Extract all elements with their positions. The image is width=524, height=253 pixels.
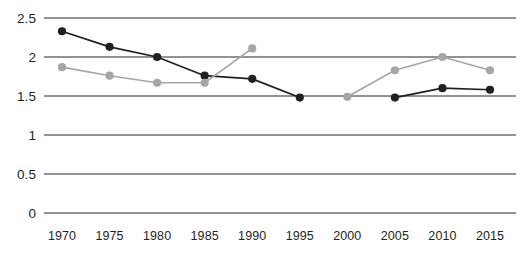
x-tick-label: 2015 — [476, 229, 504, 243]
x-tick-label: 1975 — [95, 229, 123, 243]
data-point-dark-series — [153, 53, 161, 61]
data-point-grey-series — [438, 53, 446, 61]
data-point-dark-series — [486, 86, 494, 94]
data-point-grey-series — [391, 66, 399, 74]
series-line-dark-series — [62, 31, 300, 97]
data-point-grey-series — [486, 66, 494, 74]
data-point-dark-series — [438, 84, 446, 92]
x-tick-label: 1970 — [48, 229, 76, 243]
data-point-grey-series — [343, 93, 351, 101]
data-point-dark-series — [201, 72, 209, 80]
data-point-grey-series — [201, 79, 209, 87]
data-point-dark-series — [105, 43, 113, 51]
x-tick-label: 1980 — [143, 229, 171, 243]
data-point-grey-series — [58, 63, 66, 71]
y-tick-label: 1.5 — [17, 89, 36, 104]
x-tick-label: 2000 — [333, 229, 361, 243]
y-tick-label: 2.5 — [17, 11, 36, 26]
x-tick-label: 2005 — [381, 229, 409, 243]
x-tick-label: 1995 — [286, 229, 314, 243]
data-point-grey-series — [105, 72, 113, 80]
y-tick-label: 1 — [28, 128, 36, 143]
y-tick-label: 0 — [28, 206, 36, 221]
line-chart: 00.511.522.5 197019751980198519901995200… — [0, 0, 524, 253]
x-tick-label: 1985 — [191, 229, 219, 243]
data-point-grey-series — [153, 79, 161, 87]
series-line-grey-series — [347, 57, 490, 97]
data-point-dark-series — [391, 93, 399, 101]
x-tick-label: 2010 — [428, 229, 456, 243]
chart-plot-area — [0, 0, 524, 253]
data-point-grey-series — [248, 44, 256, 52]
y-tick-label: 2 — [28, 50, 36, 65]
x-tick-label: 1990 — [238, 229, 266, 243]
data-point-dark-series — [296, 93, 304, 101]
y-tick-label: 0.5 — [17, 167, 36, 182]
data-point-dark-series — [58, 27, 66, 35]
data-point-dark-series — [248, 75, 256, 83]
series-lines — [62, 31, 490, 97]
